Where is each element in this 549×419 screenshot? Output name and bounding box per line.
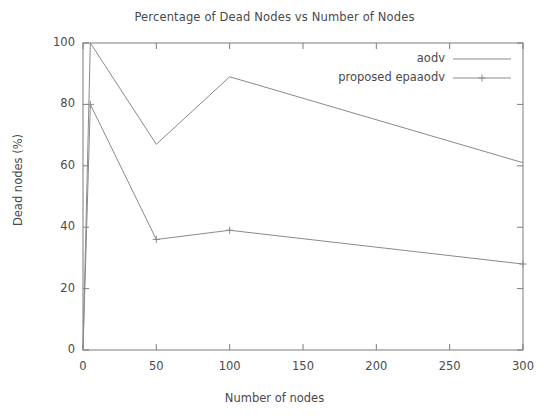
series-1 [83, 101, 527, 350]
series-0 [83, 43, 523, 350]
axis-frame [83, 43, 523, 350]
axis-ticks [83, 43, 523, 350]
plot-area [0, 0, 549, 419]
legend-sample-layer [453, 59, 511, 82]
chart-figure: Percentage of Dead Nodes vs Number of No… [0, 0, 549, 419]
data-series-layer [83, 43, 527, 350]
